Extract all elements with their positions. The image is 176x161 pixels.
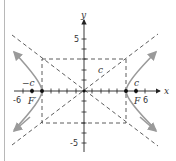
neg-c-label: −c [22,78,35,88]
y-tick-label-neg5: -5 [70,139,78,148]
origin-point [82,89,85,92]
focus-left-point [30,89,34,93]
focus-left-label: F′ [27,96,36,106]
focus-right-point [134,89,138,93]
x-axis-label: x [164,86,169,96]
c-diagonal-label: c [98,65,103,75]
x-tick-label-6: 6 [143,96,148,105]
focus-right-label: F [133,96,141,106]
y-axis-label: y [80,10,87,20]
y-tick-label-5: 5 [74,35,79,44]
vertex-right-point [124,89,128,93]
hyperbola-diagram: y x 5 -5 -6 6 F′ F −c c c [0,0,176,161]
x-tick-label-neg6: -6 [13,96,21,105]
c-right-label: c [134,78,139,88]
hyperbola-branch-left-lower-arrow [14,117,30,131]
vertex-left-point [40,89,44,93]
hyperbola-branch-right-lower-arrow [140,117,156,131]
